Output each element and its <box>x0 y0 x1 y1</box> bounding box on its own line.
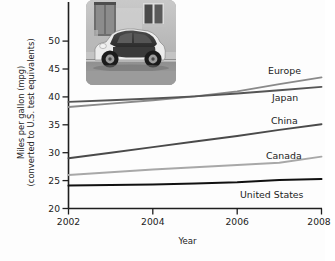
y-tick-label-30: 30 <box>38 148 60 157</box>
y-tick-label-50: 50 <box>38 36 60 45</box>
series-label-japan: Japan <box>272 93 298 102</box>
series-label-china: China <box>271 116 298 125</box>
y-tick-label-20: 20 <box>38 204 60 213</box>
x-axis-ticks <box>69 209 322 215</box>
series-label-europe: Europe <box>268 66 301 75</box>
y-axis-ticks <box>63 41 69 208</box>
series-label-united-states: United States <box>240 190 303 199</box>
x-tick-label-2006: 2006 <box>217 217 257 226</box>
y-tick-label-40: 40 <box>38 92 60 101</box>
y-tick-label-45: 45 <box>38 64 60 73</box>
x-tick-label-2002: 2002 <box>49 217 89 226</box>
y-tick-label-35: 35 <box>38 120 60 129</box>
x-tick-label-2008: 2008 <box>299 217 335 226</box>
y-tick-label-25: 25 <box>38 176 60 185</box>
series-line-united-states <box>69 179 322 186</box>
x-axis-title: Year <box>55 236 320 246</box>
series-label-canada: Canada <box>266 151 302 160</box>
x-tick-label-2004: 2004 <box>133 217 173 226</box>
